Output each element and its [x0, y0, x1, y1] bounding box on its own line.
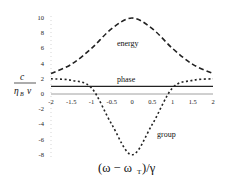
- ylabel-sub: B: [20, 91, 24, 97]
- x-tick-label: 2: [211, 98, 214, 105]
- x-tick-label: -1: [89, 98, 94, 105]
- x-tick-label: -2: [48, 98, 53, 105]
- group-curve: [51, 79, 213, 155]
- energy-label: energy: [117, 39, 139, 48]
- y-axis-ticks: 1086420-2-4-6-8: [38, 14, 45, 158]
- y-tick-label: -2: [39, 105, 44, 112]
- y-tick-label: 0: [41, 90, 44, 97]
- y-tick-label: 4: [41, 60, 45, 67]
- x-axis-label: (ω − ω T )/γ: [98, 161, 156, 176]
- y-tick-label: -8: [39, 151, 44, 158]
- x-axis-ticks: -2-1.5-1-0.500.511.52: [48, 98, 214, 105]
- y-tick-label: 6: [41, 44, 45, 51]
- x-tick-label: -1.5: [66, 98, 76, 105]
- x-tick-label: 0.5: [148, 98, 156, 105]
- chart: 1086420-2-4-6-8 -2-1.5-1-0.500.511.52 en…: [0, 0, 229, 186]
- x-tick-label: 1.5: [189, 98, 197, 105]
- ylabel-v: v: [27, 86, 32, 96]
- phase-label: phase: [117, 75, 136, 84]
- x-tick-label: -0.5: [107, 98, 117, 105]
- y-tick-label: 10: [38, 14, 45, 21]
- xlabel-tail: )/γ: [142, 161, 156, 175]
- x-tick-label: 1: [171, 98, 174, 105]
- y-tick-label: 8: [41, 29, 44, 36]
- ylabel-numerator: c: [20, 72, 25, 82]
- ylabel-eta: η: [14, 86, 19, 96]
- group-label: group: [157, 130, 176, 139]
- y-tick-label: -6: [39, 136, 45, 143]
- y-tick-label: 2: [41, 75, 44, 82]
- xlabel-main: (ω − ω: [98, 161, 132, 175]
- y-axis-label: c η B v: [14, 72, 36, 97]
- y-tick-label: -4: [39, 120, 45, 127]
- x-tick-label: 0: [130, 98, 133, 105]
